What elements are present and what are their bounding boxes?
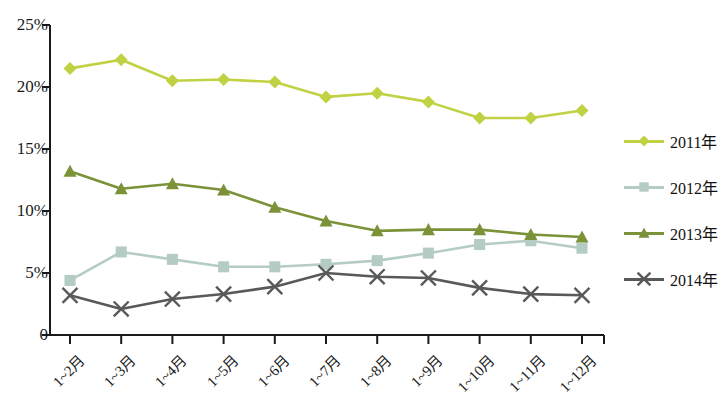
- legend-item-2014年[interactable]: 2014年: [624, 256, 728, 302]
- legend-marker-triangle-icon: [637, 226, 651, 240]
- data-point-marker-triangle: [639, 228, 650, 238]
- data-point-marker-square: [639, 182, 648, 191]
- legend-marker-x-icon: [637, 272, 651, 286]
- legend-label: 2012年: [664, 175, 718, 199]
- chart-legend: 2011年2012年2013年2014年: [624, 118, 728, 302]
- x-axis-tick-labels: 1~2月1~3月1~4月1~5月1~6月1~7月1~8月1~9月1~10月1~1…: [0, 0, 728, 399]
- legend-item-2011年[interactable]: 2011年: [624, 118, 728, 164]
- legend-key-swatch: [624, 223, 664, 243]
- legend-marker-square-icon: [637, 180, 651, 194]
- legend-key-swatch: [624, 269, 664, 289]
- data-point-marker-diamond: [639, 136, 650, 147]
- legend-label: 2013年: [664, 221, 718, 245]
- legend-label: 2011年: [664, 129, 717, 153]
- x-axis-tick-label: 1~2月: [3, 349, 89, 399]
- legend-marker-diamond-icon: [637, 134, 651, 148]
- legend-key-swatch: [624, 177, 664, 197]
- legend-item-2013年[interactable]: 2013年: [624, 210, 728, 256]
- legend-key-swatch: [624, 131, 664, 151]
- line-chart: 05%10%15%20%25% 1~2月1~3月1~4月1~5月1~6月1~7月…: [0, 0, 728, 399]
- legend-label: 2014年: [664, 267, 718, 291]
- legend-item-2012年[interactable]: 2012年: [624, 164, 728, 210]
